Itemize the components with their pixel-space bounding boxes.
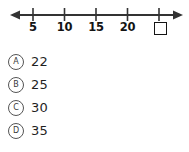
choice-letter-d: D xyxy=(8,123,24,139)
choice-letter-c: C xyxy=(8,100,24,116)
tick-label-1: 5 xyxy=(18,20,48,34)
choice-letter-a: A xyxy=(8,54,24,70)
choice-value-d: 35 xyxy=(31,123,48,138)
tick-label-4: 20 xyxy=(113,20,143,34)
right-arrow-icon xyxy=(173,11,183,20)
choice-value-b: 25 xyxy=(31,77,48,92)
choice-value-a: 22 xyxy=(31,54,48,69)
answer-choice-c[interactable]: C 30 xyxy=(0,96,189,119)
tick-label-2: 10 xyxy=(50,20,80,34)
answer-choice-a[interactable]: A 22 xyxy=(0,50,189,73)
choice-value-c: 30 xyxy=(31,100,48,115)
left-arrow-icon xyxy=(10,11,20,20)
answer-choice-list: A 22 B 25 C 30 D 35 xyxy=(0,50,189,142)
number-line-figure: 5 10 15 20 xyxy=(0,0,189,46)
answer-choice-b[interactable]: B 25 xyxy=(0,73,189,96)
choice-letter-b: B xyxy=(8,77,24,93)
tick-label-3: 15 xyxy=(81,20,111,34)
answer-choice-d[interactable]: D 35 xyxy=(0,119,189,142)
unknown-value-box-icon[interactable] xyxy=(154,22,167,35)
